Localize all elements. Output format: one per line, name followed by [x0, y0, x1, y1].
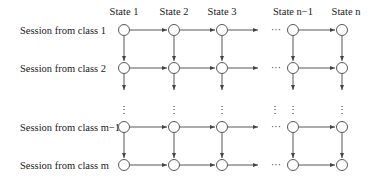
- state-node: [337, 25, 348, 36]
- state-node: [288, 25, 299, 36]
- state-nodes: [119, 25, 348, 171]
- state-node: [217, 122, 228, 133]
- class-state-diagram: State 1 State 2 State 3 State n−1 State …: [0, 0, 372, 180]
- state-node: [119, 160, 130, 171]
- state-node: [288, 122, 299, 133]
- vertical-ellipsis: ⋮: [119, 104, 129, 115]
- state-node: [217, 63, 228, 74]
- state-node: [288, 160, 299, 171]
- header-state-n-minus-1: State n−1: [273, 6, 313, 17]
- horizontal-ellipsis: ···: [271, 121, 281, 132]
- header-state-n: State n: [332, 6, 362, 17]
- state-node: [119, 25, 130, 36]
- vertical-ellipsis: ⋮: [270, 104, 280, 115]
- header-state-3: State 3: [208, 6, 237, 17]
- row-label-class-2: Session from class 2: [20, 63, 106, 74]
- header-state-2: State 2: [160, 6, 189, 17]
- vertical-ellipsis: ⋮: [217, 104, 227, 115]
- state-node: [337, 63, 348, 74]
- row-label-class-1: Session from class 1: [20, 25, 106, 36]
- state-node: [288, 63, 299, 74]
- vertical-transitions: [124, 36, 342, 158]
- vertical-ellipsis: ⋮: [288, 104, 298, 115]
- row-label-class-m-minus-1: Session from class m−1: [20, 122, 120, 133]
- vertical-ellipses: ⋮ ⋮ ⋮ ⋮ ⋮ ⋮: [119, 104, 347, 115]
- vertical-ellipsis: ⋮: [169, 104, 179, 115]
- state-node: [119, 63, 130, 74]
- state-node: [217, 25, 228, 36]
- horizontal-ellipses: ··· ··· ··· ···: [271, 24, 281, 170]
- state-node: [169, 160, 180, 171]
- state-node: [169, 63, 180, 74]
- horizontal-ellipsis: ···: [271, 24, 281, 35]
- vertical-ellipsis: ⋮: [337, 104, 347, 115]
- state-node: [337, 122, 348, 133]
- header-state-1: State 1: [110, 6, 139, 17]
- state-node: [169, 25, 180, 36]
- state-node: [217, 160, 228, 171]
- row-labels: Session from class 1 Session from class …: [20, 25, 120, 171]
- state-node: [169, 122, 180, 133]
- horizontal-ellipsis: ···: [271, 159, 281, 170]
- horizontal-ellipsis: ···: [271, 62, 281, 73]
- row-label-class-m: Session from class m: [20, 160, 109, 171]
- column-headers: State 1 State 2 State 3 State n−1 State …: [110, 6, 362, 17]
- state-node: [337, 160, 348, 171]
- state-node: [119, 122, 130, 133]
- horizontal-transitions: [130, 30, 335, 165]
